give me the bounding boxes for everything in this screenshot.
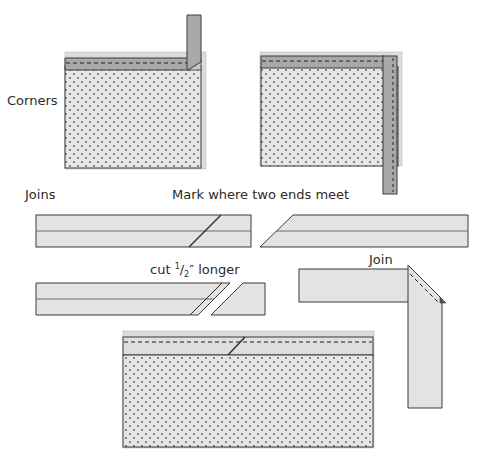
- label-mark: Mark where two ends meet: [172, 187, 349, 202]
- quilt-top: [261, 67, 398, 166]
- label-corners: Corners: [7, 93, 58, 108]
- vertical-strip: [408, 265, 442, 408]
- binding-strip: [261, 56, 384, 68]
- join-cut-figure: [36, 283, 265, 315]
- overhang-tip: [440, 297, 446, 303]
- joined-binding-figure: [123, 331, 374, 448]
- quilt-top: [123, 355, 373, 447]
- label-joins: Joins: [24, 187, 56, 202]
- horizontal-strip: [299, 269, 409, 302]
- binding-diagram: Corners Joins Mark where two ends meet c…: [0, 0, 479, 464]
- folded-down-strip: [383, 56, 397, 194]
- join-mark-figure: [36, 215, 468, 247]
- quilt-top: [65, 66, 201, 168]
- binding-strip: [123, 337, 373, 355]
- label-cut: cut 1/2″ longer: [150, 262, 240, 279]
- folded-strip: [187, 15, 201, 70]
- corner-figure-2: [260, 52, 402, 194]
- binding-strip: [65, 58, 201, 70]
- corner-figure-1: [65, 15, 206, 169]
- label-join: Join: [368, 252, 393, 267]
